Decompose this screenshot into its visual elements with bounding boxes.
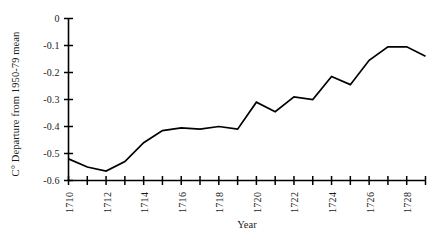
data-series-line — [69, 47, 426, 171]
x-tick-label: 1724 — [327, 191, 338, 212]
y-tick-label: -0.5 — [26, 149, 60, 159]
y-tick-label: 0 — [26, 14, 60, 24]
x-tick-label: 1728 — [402, 191, 413, 212]
x-tick-label: 1720 — [252, 191, 263, 212]
y-tick-label: -0.1 — [26, 41, 60, 51]
x-tick-label: 1716 — [177, 191, 188, 212]
y-tick-label: -0.6 — [26, 176, 60, 186]
x-tick-label: 1726 — [365, 191, 376, 212]
x-axis-title: Year — [68, 219, 426, 230]
temperature-departure-line-chart: C° Departure from 1950-79 mean Year 0-0.… — [0, 0, 437, 242]
x-tick-label: 1712 — [102, 191, 113, 212]
y-tick-label: -0.3 — [26, 95, 60, 105]
x-tick-label: 1714 — [139, 191, 150, 212]
x-tick-label: 1718 — [214, 191, 225, 212]
x-tick-label: 1710 — [64, 191, 75, 212]
x-tick-label: 1722 — [289, 191, 300, 212]
y-axis-title: C° Departure from 1950-79 mean — [10, 4, 22, 204]
axes — [69, 19, 426, 181]
y-tick-label: -0.4 — [26, 122, 60, 132]
y-tick-label: -0.2 — [26, 68, 60, 78]
